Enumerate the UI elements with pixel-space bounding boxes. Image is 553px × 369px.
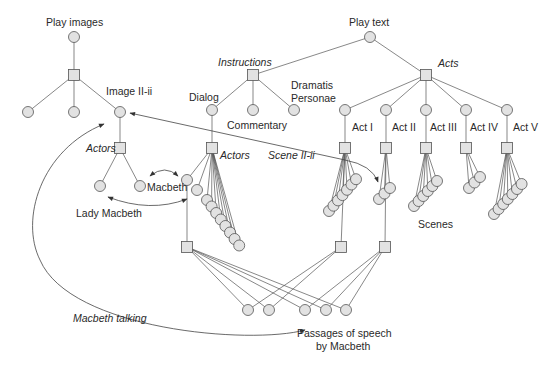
label-scene-ii-ii: Scene II-ii xyxy=(268,149,315,161)
act-2-hub-node[interactable] xyxy=(381,143,392,154)
actor-lady-node[interactable] xyxy=(95,181,106,192)
diagram-canvas: Play images Play text Instructions Acts … xyxy=(0,0,553,369)
scene-node-act-2-hub[interactable] xyxy=(385,183,396,194)
label-play-text: Play text xyxy=(349,16,389,28)
acts-hub-node[interactable] xyxy=(421,70,432,81)
label-personae: Personae xyxy=(291,92,336,104)
passage-2-node[interactable] xyxy=(264,305,275,316)
nodes xyxy=(23,32,528,316)
label-acts: Acts xyxy=(438,57,458,69)
edge-macbeth-passage xyxy=(187,247,346,310)
scene-node-act-4-hub[interactable] xyxy=(475,172,486,183)
label-actors-dialog: Actors xyxy=(220,149,250,161)
play-images-node[interactable] xyxy=(69,32,80,43)
edge-fan-act-2-hub xyxy=(386,148,390,188)
label-macbeth: Macbeth xyxy=(147,181,187,193)
play-images-hub-node[interactable] xyxy=(69,70,80,81)
macbeth-talking-link xyxy=(33,124,305,335)
edge-acts-hub-act-2 xyxy=(386,75,426,110)
act-5-node[interactable] xyxy=(502,105,513,116)
label-dramatis: Dramatis xyxy=(291,79,333,91)
label-act-1: Act I xyxy=(352,121,373,133)
scene-node-dialog-actors-hub[interactable] xyxy=(234,240,245,251)
edge-scene-passage xyxy=(305,247,385,310)
label-by-macbeth: by Macbeth xyxy=(316,340,370,352)
act-1-hub-node[interactable] xyxy=(340,143,351,154)
lady-macbeth-link xyxy=(108,197,187,206)
label-lady-macbeth: Lady Macbeth xyxy=(76,207,142,219)
dramatis-node[interactable] xyxy=(289,105,300,116)
edge-instructions-hub-dramatis xyxy=(253,75,294,110)
scene-node-act-3-hub[interactable] xyxy=(432,176,443,187)
act-3-node[interactable] xyxy=(421,105,432,116)
commentary-node[interactable] xyxy=(248,105,259,116)
passage-4-node[interactable] xyxy=(321,305,332,316)
label-scenes: Scenes xyxy=(418,218,453,230)
scene-node-act-1-hub[interactable] xyxy=(351,174,362,185)
edge-play-images-hub-img-1 xyxy=(28,75,74,112)
dialog-node[interactable] xyxy=(207,105,218,116)
label-actors-left: Actors xyxy=(86,142,116,154)
edge-scene-passage xyxy=(346,247,385,310)
label-macbeth-talking: Macbeth talking xyxy=(73,312,147,324)
label-passages: Passages of speech xyxy=(297,327,392,339)
label-act-3: Act III xyxy=(430,121,457,133)
act-2-scene-hub-node[interactable] xyxy=(380,242,391,253)
edge-scene-passage xyxy=(326,247,385,310)
play-text-node[interactable] xyxy=(365,32,376,43)
macbeth-link xyxy=(150,170,178,176)
dialog-actors-hub-node[interactable] xyxy=(207,143,218,154)
edge-scene-passage xyxy=(248,247,341,310)
edge-play-text-acts-hub xyxy=(370,37,426,75)
act-2-node[interactable] xyxy=(381,105,392,116)
label-act-4: Act IV xyxy=(470,121,498,133)
label-act-2: Act II xyxy=(392,121,416,133)
act-1-node[interactable] xyxy=(340,105,351,116)
act-4-hub-node[interactable] xyxy=(461,143,472,154)
scene-ii-ii-hub-node[interactable] xyxy=(336,242,347,253)
edge-macbeth-passage xyxy=(187,247,248,310)
label-image-ii-ii: Image II-ii xyxy=(106,85,152,97)
act-5-hub-node[interactable] xyxy=(502,143,513,154)
img-2-node[interactable] xyxy=(69,107,80,118)
act-3-hub-node[interactable] xyxy=(421,143,432,154)
instructions-hub-node[interactable] xyxy=(248,70,259,81)
actors-hub-node[interactable] xyxy=(115,143,126,154)
passage-5-node[interactable] xyxy=(341,305,352,316)
label-instructions: Instructions xyxy=(218,56,272,68)
label-commentary: Commentary xyxy=(227,119,287,131)
edge-acts-hub-act-4 xyxy=(426,75,466,110)
image-ii-ii-node[interactable] xyxy=(115,107,126,118)
passage-3-node[interactable] xyxy=(300,305,311,316)
scene-node-act-5-hub[interactable] xyxy=(516,179,527,190)
macbeth-hub-node[interactable] xyxy=(182,242,193,253)
label-act-5: Act V xyxy=(513,121,538,133)
lady-actor-node[interactable] xyxy=(192,185,203,196)
passage-1-node[interactable] xyxy=(243,305,254,316)
img-1-node[interactable] xyxy=(23,107,34,118)
edge-macbeth-passage xyxy=(187,247,305,310)
label-play-images: Play images xyxy=(46,16,103,28)
actor-macbeth-node[interactable] xyxy=(135,181,146,192)
act-4-node[interactable] xyxy=(461,105,472,116)
label-dialog: Dialog xyxy=(189,91,219,103)
edges xyxy=(28,37,522,310)
